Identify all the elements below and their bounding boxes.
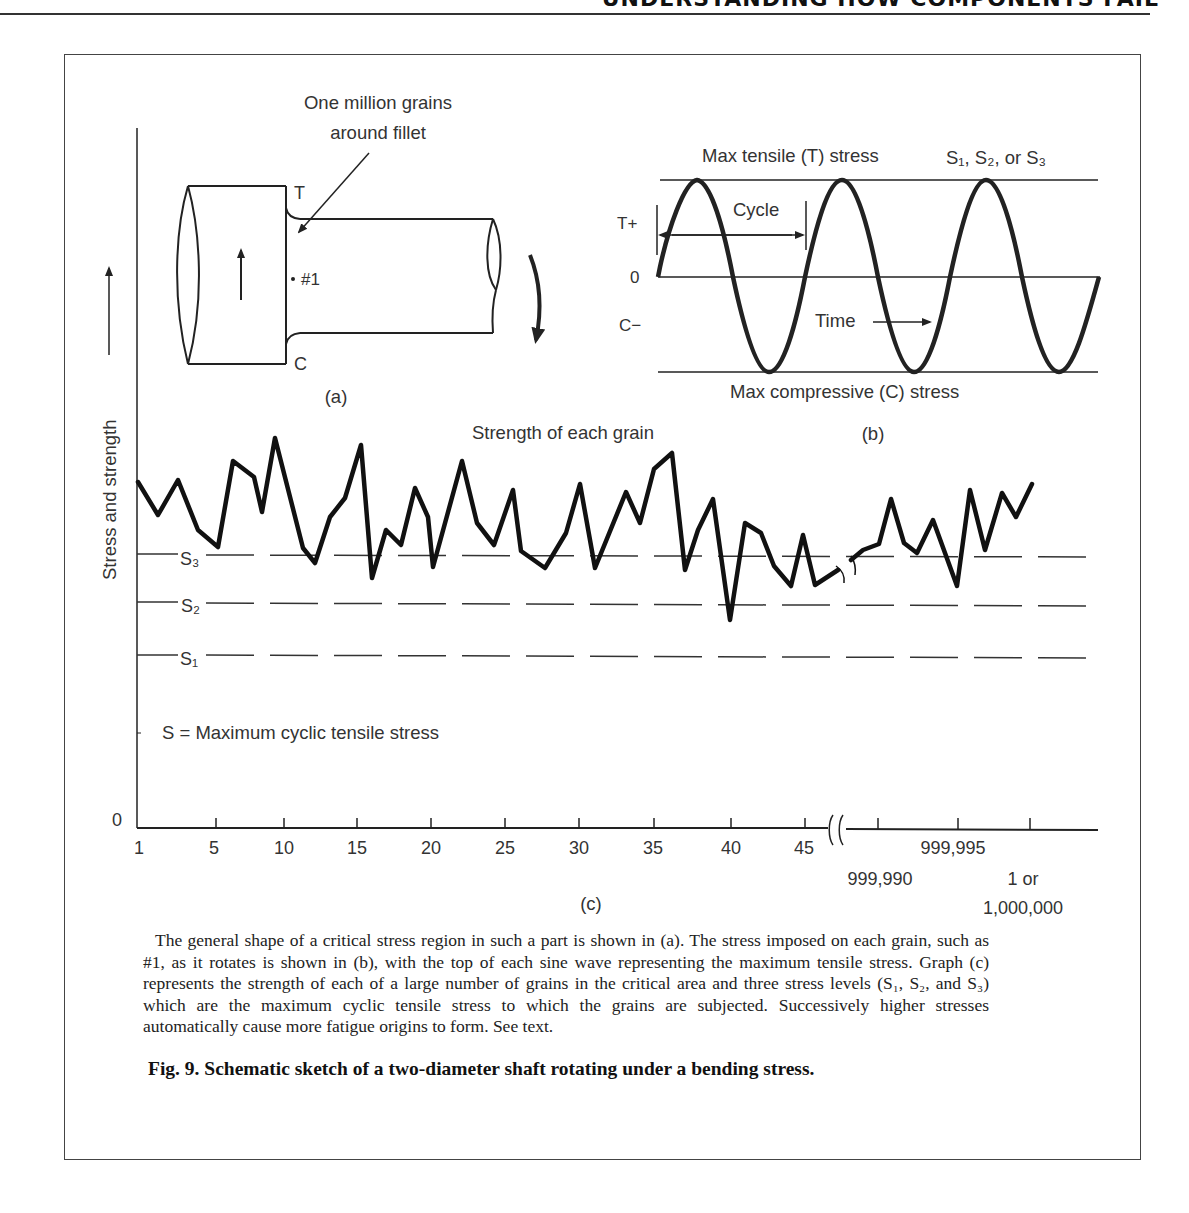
x-tick: 40 (721, 838, 741, 858)
x-tick: 15 (347, 838, 367, 858)
legend-text: S = Maximum cyclic tensile stress (162, 722, 439, 743)
c-minus-label: C− (619, 316, 641, 335)
zero-label: 0 (630, 268, 639, 287)
y-zero-label: 0 (112, 810, 122, 830)
panel-a-label: (a) (325, 386, 348, 407)
grain-1-label: #1 (301, 270, 320, 289)
x-tick: 25 (495, 838, 515, 858)
tension-mark: T (294, 183, 305, 203)
strength-series (138, 438, 1032, 620)
cycle-label: Cycle (733, 199, 779, 220)
y-axis-label: Stress and strength (99, 420, 120, 580)
x-tick: 999,995 (920, 838, 985, 858)
figure-caption-body: The general shape of a critical stress r… (143, 930, 989, 1038)
max-tensile-label: Max tensile (T) stress (702, 145, 879, 166)
t-plus-label: T+ (617, 214, 637, 233)
stress-levels-label: S₁, S₂, or S₃ (946, 147, 1046, 168)
x-tick: 20 (421, 838, 441, 858)
x-tick: 999,990 (847, 869, 912, 889)
max-compressive-label: Max compressive (C) stress (730, 381, 959, 402)
compression-mark: C (294, 354, 307, 374)
x-tick: 1 (134, 838, 144, 858)
x-tick: 10 (274, 838, 294, 858)
callout-line-1: One million grains (304, 92, 452, 113)
panel-b-stress-cycle (657, 180, 1100, 372)
x-tick: 30 (569, 838, 589, 858)
grain-1-dot (291, 277, 295, 281)
x-tick: 1,000,000 (983, 898, 1063, 918)
panel-c-label: (c) (580, 893, 602, 914)
x-tick: 35 (643, 838, 663, 858)
series-label: Strength of each grain (472, 422, 654, 443)
s2-label: S₂ (181, 596, 200, 616)
stress-level-lines (137, 554, 1098, 658)
time-label: Time (815, 310, 855, 331)
s3-label: S₃ (180, 549, 199, 569)
callout-line-2: around fillet (330, 122, 426, 143)
s1-label: S₁ (180, 649, 198, 669)
sine-wave (658, 180, 1099, 372)
x-tick: 45 (794, 838, 814, 858)
x-tick: 5 (209, 838, 219, 858)
panel-a-shaft-diagram (177, 153, 539, 364)
panel-b-label: (b) (862, 423, 885, 444)
figure-title: Fig. 9. Schematic sketch of a two-diamet… (148, 1057, 960, 1081)
x-tick: 1 or (1007, 869, 1038, 889)
